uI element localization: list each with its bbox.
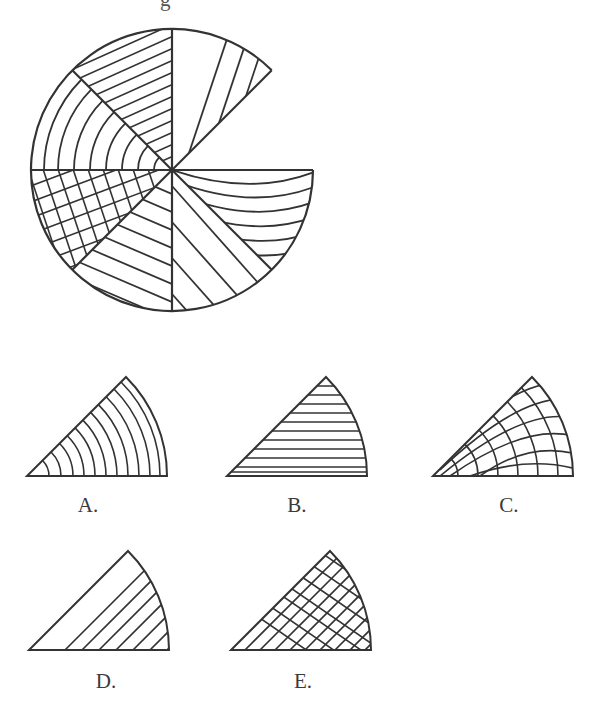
option-e-label[interactable]: E. xyxy=(294,671,312,692)
option-e-figure[interactable] xyxy=(190,545,470,680)
option-d-figure[interactable] xyxy=(29,550,284,670)
option-a-figure[interactable] xyxy=(0,343,167,609)
main-circle-figure xyxy=(20,0,350,402)
option-a-label[interactable]: A. xyxy=(78,495,98,516)
option-d-label[interactable]: D. xyxy=(96,671,116,692)
option-b-figure[interactable] xyxy=(220,377,380,476)
figure-canvas xyxy=(0,0,594,714)
puzzle-stage: g xyxy=(0,0,594,714)
option-b-label[interactable]: B. xyxy=(287,495,306,516)
sector-curved-arcs xyxy=(172,165,330,285)
sector-shallow-diagonal xyxy=(40,0,200,228)
instruction-fragment: g xyxy=(160,0,171,12)
sector-diagonal-steep-down xyxy=(76,96,348,402)
main-outline xyxy=(31,29,313,311)
option-c-label[interactable]: C. xyxy=(499,495,518,516)
